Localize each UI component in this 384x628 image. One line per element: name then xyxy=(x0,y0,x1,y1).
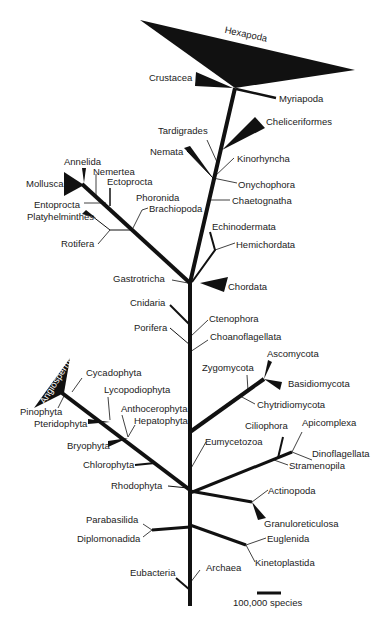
label-parabasilida: Parabasilida xyxy=(86,514,138,525)
label-ciliophora: Ciliophora xyxy=(245,420,288,431)
phoronida-branch xyxy=(132,208,148,230)
label-myriapoda: Myriapoda xyxy=(279,93,323,104)
label-entoprocta: Entoprocta xyxy=(34,199,80,210)
label-mollusca: Mollusca xyxy=(26,178,64,189)
label-eumycetozoa: Eumycetozoa xyxy=(205,436,263,447)
label-platyhelminthes: Platyhelminthes xyxy=(27,211,94,222)
label-rotifera: Rotifera xyxy=(61,238,94,249)
chlorophyta-branch xyxy=(135,463,155,465)
hepatophyta-branch xyxy=(128,425,135,437)
label-nemata: Nemata xyxy=(150,146,183,157)
diplomonadida-branch xyxy=(143,530,152,537)
tree-diagram xyxy=(0,0,384,628)
label-granuloreticulosa: Granuloreticulosa xyxy=(264,518,338,529)
label-lycopodiophyta: Lycopodiophyta xyxy=(104,384,170,395)
rhizaria-branch xyxy=(190,491,252,502)
label-bryophyta: Bryophyta xyxy=(67,440,110,451)
label-ectoprocta: Ectoprocta xyxy=(107,176,152,187)
label-actinopoda: Actinopoda xyxy=(268,485,316,496)
label-stramenopila: Stramenopila xyxy=(289,460,345,471)
label-cnidaria: Cnidaria xyxy=(130,297,165,308)
actinopoda-branch xyxy=(252,490,268,502)
label-apicomplexa: Apicomplexa xyxy=(302,417,356,428)
onychophora-branch xyxy=(213,178,237,183)
zygomycota-branch xyxy=(247,375,248,391)
tardigrades-branch xyxy=(207,140,217,162)
anthocerophyta-branch xyxy=(122,415,128,437)
label-eubacteria: Eubacteria xyxy=(130,567,175,578)
apicomplexa-branch xyxy=(292,432,302,452)
chytridiomycota-branch xyxy=(240,396,255,404)
eumycetozoa-branch xyxy=(190,442,206,470)
dinoflagellata-branch xyxy=(292,452,312,460)
label-dinoflagellata: Dinoflagellata xyxy=(312,448,370,459)
label-cheliceriformes: Cheliceriformes xyxy=(266,116,332,127)
eubacteria-branch xyxy=(176,578,190,590)
nemata-wedge xyxy=(184,146,213,178)
label-archaea: Archaea xyxy=(206,562,241,573)
label-gastrotricha: Gastrotricha xyxy=(113,273,165,284)
chordata-wedge xyxy=(200,277,228,292)
label-kinetoplastida: Kinetoplastida xyxy=(255,557,315,568)
choanoflagellata-branch xyxy=(190,340,208,352)
label-crustacea: Crustacea xyxy=(149,72,192,83)
label-chytridiomycota: Chytridiomycota xyxy=(257,399,325,410)
parabasilida-branch xyxy=(143,524,152,530)
label-pinophyta: Pinophyta xyxy=(20,406,62,417)
annelida-wedge xyxy=(82,168,86,183)
label-anthocerophyta: Anthocerophyta xyxy=(121,403,188,414)
kinetoplastida-branch xyxy=(246,545,255,562)
label-diplomonadida: Diplomonadida xyxy=(77,533,140,544)
label-hemichordata: Hemichordata xyxy=(236,239,295,250)
diplomonad-branch xyxy=(152,527,190,530)
label-chlorophyta: Chlorophyta xyxy=(83,459,134,470)
label-euglenida: Euglenida xyxy=(267,533,309,544)
euglenida-branch xyxy=(246,538,266,545)
stramenopila-branch xyxy=(274,460,288,465)
rotifera-branch xyxy=(98,230,110,244)
label-kinorhyncha: Kinorhyncha xyxy=(237,153,290,164)
label-pteridophyta: Pteridophyta xyxy=(34,418,87,429)
hemichordata-branch xyxy=(215,243,235,250)
cycadophyta-branch xyxy=(72,378,82,392)
label-brachiopoda: Brachiopoda xyxy=(149,203,202,214)
porifera-branch xyxy=(170,328,190,345)
label-tardigrades: Tardigrades xyxy=(158,125,208,136)
label-porifera: Porifera xyxy=(134,322,167,333)
label-hepatophyta: Hepatophyta xyxy=(134,415,188,426)
label-echinodermata: Echinodermata xyxy=(212,221,276,232)
myriapoda-branch xyxy=(236,89,276,98)
label-phoronida: Phoronida xyxy=(136,192,179,203)
lycopodiophyta-branch xyxy=(108,397,110,420)
label-onychophora: Onychophora xyxy=(238,179,295,190)
label-ascomycota: Ascomycota xyxy=(267,348,319,359)
label-zygomycota: Zygomycota xyxy=(202,362,254,373)
mollusca-wedge xyxy=(64,172,84,196)
ascomycota-wedge xyxy=(264,360,272,379)
cnidaria-branch xyxy=(170,305,190,325)
label-choanoflagellata: Choanoflagellata xyxy=(210,331,281,342)
label-ctenophora: Ctenophora xyxy=(209,313,259,324)
label-basidiomycota: Basidiomycota xyxy=(288,378,350,389)
label-chordata: Chordata xyxy=(228,281,267,292)
label-cycadophyta: Cycadophyta xyxy=(86,367,141,378)
ctenophora-branch xyxy=(190,320,208,337)
euglenozoa-branch xyxy=(190,525,246,545)
scale-bar-label: 100,000 species xyxy=(233,597,302,608)
basidiomycota-wedge xyxy=(264,379,282,390)
label-chaetognatha: Chaetognatha xyxy=(232,195,292,206)
label-rhodophyta: Rhodophyta xyxy=(111,480,162,491)
